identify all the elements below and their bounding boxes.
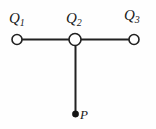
field-point-label-p: P (80, 108, 88, 121)
charge-label-q2: Q2 (66, 11, 82, 26)
physics-diagram-figure: Q1 Q2 Q3 P (0, 0, 156, 129)
charge-node-q2 (69, 34, 81, 46)
charge-node-q1 (12, 35, 22, 45)
connector-lines (17, 40, 134, 115)
charge-label-q3: Q3 (124, 8, 140, 23)
charge-symbol-q3: Q (124, 7, 135, 23)
charge-subscript-q1: 1 (20, 17, 25, 28)
charge-symbol-q2: Q (66, 10, 77, 26)
charge-symbol-q1: Q (9, 10, 20, 26)
field-point-dot-p (72, 111, 78, 117)
charge-subscript-q3: 3 (135, 14, 140, 25)
charge-subscript-q2: 2 (77, 17, 82, 28)
charge-label-q1: Q1 (9, 11, 25, 26)
charge-node-q3 (129, 35, 139, 45)
